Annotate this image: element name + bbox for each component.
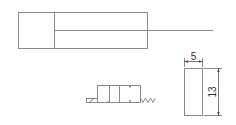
arrow-left-icon <box>185 60 189 62</box>
pneumatic-cylinder <box>19 13 214 49</box>
technical-drawing: 5 13 <box>0 0 236 125</box>
solenoid-valve <box>87 86 156 103</box>
valve-port-bottom <box>129 101 131 102</box>
solenoid-diagonal <box>90 99 94 103</box>
part-outline <box>185 69 203 116</box>
spring-icon <box>141 98 156 103</box>
dim-height-label: 13 <box>207 86 218 98</box>
valve-port-top <box>129 86 131 87</box>
part-view: 5 13 <box>185 51 223 116</box>
arrow-up-icon <box>217 69 219 73</box>
arrow-right-icon <box>199 60 203 62</box>
dim-width-label: 5 <box>191 51 197 62</box>
arrow-down-icon <box>217 112 219 116</box>
